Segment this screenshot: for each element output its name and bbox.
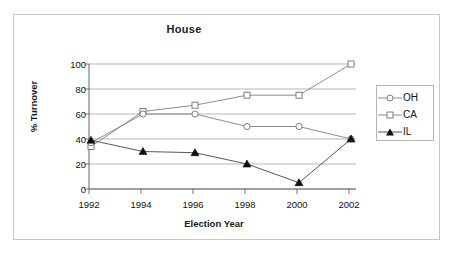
legend-label: OH [403, 91, 418, 105]
x-axis-ticks [89, 189, 349, 194]
filled-triangle-marker-icon [377, 125, 403, 139]
legend-label: CA [403, 108, 417, 122]
chart-legend: OH CA IL [376, 85, 434, 141]
open-circle-marker-icon [377, 91, 403, 105]
chart-screenshot: House % Turnover Election Year 100 80 60… [0, 0, 455, 261]
series-line-IL [91, 139, 351, 183]
series-markers-IL [87, 135, 355, 186]
legend-item-il[interactable]: IL [377, 123, 433, 140]
legend-item-ca[interactable]: CA [377, 106, 433, 123]
open-square-marker-icon [377, 108, 403, 122]
series-markers-CA [88, 61, 354, 150]
series-line-CA [91, 64, 351, 147]
figure-frame: House % Turnover Election Year 100 80 60… [13, 14, 440, 240]
series-line-OH [91, 114, 351, 143]
legend-label: IL [403, 125, 411, 139]
legend-item-oh[interactable]: OH [377, 89, 433, 106]
series-markers-OH [88, 111, 354, 146]
axis-lines [89, 64, 356, 189]
gridlines [89, 64, 356, 189]
y-axis-ticks [84, 64, 89, 189]
